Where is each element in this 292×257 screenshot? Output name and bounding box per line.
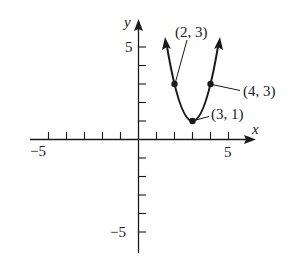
label-point-3-1: (3, 1) [211, 106, 244, 123]
y-tick-label-neg5: −5 [110, 224, 126, 240]
label-point-4-3: (4, 3) [243, 83, 276, 100]
leader-2-3 [176, 40, 188, 82]
point-vertex-3-1 [189, 118, 195, 124]
x-axis-label: x [251, 121, 259, 137]
point-4-3 [207, 81, 213, 87]
x-tick-label-neg5: −5 [30, 143, 46, 159]
y-axis-label: y [122, 14, 131, 30]
label-point-2-3: (2, 3) [175, 24, 208, 41]
parabola-graph: x y −5 5 5 −5 (2, 3) (4, 3) (3, 1) [0, 0, 292, 257]
x-tick-label-5: 5 [224, 144, 232, 160]
y-tick-label-5: 5 [125, 39, 133, 55]
leader-4-3 [212, 85, 240, 91]
point-2-3 [171, 81, 177, 87]
